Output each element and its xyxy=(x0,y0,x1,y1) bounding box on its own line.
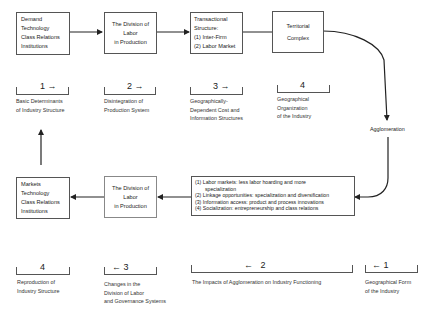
arrow-left-icon: ← xyxy=(244,260,253,270)
box-line: (2) Labor Market xyxy=(194,42,239,51)
stage-number-top-4: 4 xyxy=(300,80,305,90)
stage-number-top-3: 3 → xyxy=(213,81,230,91)
arrow-right-icon: → xyxy=(48,81,57,91)
box-line: The Division of xyxy=(112,184,149,193)
box-division-of-labor-top: The Division of Labor in Production xyxy=(104,12,157,54)
box-line: The Division of xyxy=(112,20,149,29)
box-line: Technology xyxy=(21,24,65,33)
arrow-right-icon: → xyxy=(221,81,230,91)
stage-number-bottom-1: ← 1 xyxy=(372,260,389,270)
impact-item: (1) Labor markets: less labor hoarding a… xyxy=(195,179,351,186)
box-line: Technology xyxy=(21,189,65,198)
box-line: (1) Inter-Firm xyxy=(194,33,239,42)
stage-number-bottom-4: 4 xyxy=(40,262,45,272)
box-line: Structure: xyxy=(194,24,239,33)
stage-caption-bottom-3: Changes in theDivision of Laborand Gover… xyxy=(104,280,166,306)
box-line: Institutions xyxy=(21,207,65,216)
stage-caption-top-1: Basic Determinantsof Industry Structure xyxy=(16,97,65,114)
box-line: Class Relations xyxy=(21,33,65,42)
stage-caption-top-3: Geographically-Dependent Cost andInforma… xyxy=(190,97,243,123)
arrow-right-icon: → xyxy=(135,81,144,91)
box-division-of-labor-bottom: The Division of Labor in Production xyxy=(104,176,157,218)
stage-bracket-bottom-2 xyxy=(191,265,353,273)
box-line: Complex xyxy=(287,34,309,43)
stage-caption-top-4: GeographicalOrganizationof the Industry xyxy=(277,95,311,121)
box-markets-institutions: Markets Technology Class Relations Insti… xyxy=(16,177,70,219)
box-line: in Production xyxy=(114,202,147,211)
impact-item: (4) Socialization: entrepreneurship and … xyxy=(195,205,351,212)
arrow-left-icon: ← xyxy=(112,262,121,272)
impact-item: (2) Linkage opportunities: specializatio… xyxy=(195,192,351,199)
box-line: Demand xyxy=(21,15,65,24)
box-line: Labor xyxy=(123,193,137,202)
stage-caption-bottom-2: The Impacts of Agglomeration on Industry… xyxy=(192,278,321,287)
box-line: in Production xyxy=(114,38,147,47)
box-line: Class Relations xyxy=(21,198,65,207)
impact-item: (3) Information access: product and proc… xyxy=(195,199,351,206)
agglomeration-label: Agglomeration xyxy=(370,126,405,132)
stage-caption-bottom-1: Geographical Formof the Industry xyxy=(365,278,411,295)
box-line: Transactional xyxy=(194,15,239,24)
stage-caption-top-2: Disintegration ofProduction System xyxy=(104,97,149,114)
box-line: Institutions xyxy=(21,42,65,51)
box-basic-determinants: Demand Technology Class Relations Instit… xyxy=(16,12,70,55)
box-territorial-complex: Territorial Complex xyxy=(272,11,324,53)
stage-number-bottom-2: ← 2 xyxy=(244,260,266,270)
stage-number-bottom-3: ← 3 xyxy=(112,262,129,272)
box-line: Territorial xyxy=(287,22,310,31)
box-line: Labor xyxy=(123,29,137,38)
impact-item: specialization xyxy=(195,186,351,193)
box-agglomeration-impacts: (1) Labor markets: less labor hoarding a… xyxy=(191,176,355,216)
arrow-left-icon: ← xyxy=(372,260,381,270)
stage-caption-bottom-4: Reproduction ofIndustry Structure xyxy=(17,278,60,295)
stage-number-top-1: 1 → xyxy=(40,81,57,91)
box-transactional-structure: Transactional Structure: (1) Inter-Firm … xyxy=(190,12,243,54)
stage-number-top-2: 2 → xyxy=(127,81,144,91)
box-line: Markets xyxy=(21,180,65,189)
